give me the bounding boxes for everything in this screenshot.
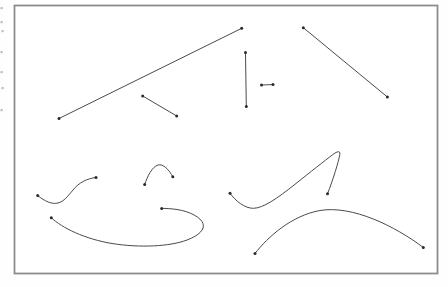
endpoint-dot <box>171 175 174 178</box>
margin-text-fragment <box>2 30 4 32</box>
endpoint-dot <box>143 183 146 186</box>
endpoint-dot <box>272 83 275 86</box>
endpoint-dot <box>50 216 53 219</box>
endpoint-dot <box>141 95 144 98</box>
endpoint-dot <box>175 115 178 118</box>
endpoint-dot <box>160 207 163 210</box>
endpoint-dot <box>58 117 61 120</box>
endpoint-dot <box>422 246 425 249</box>
endpoint-dot <box>326 192 329 195</box>
endpoint-dot <box>240 27 243 30</box>
endpoint-dot <box>302 26 305 29</box>
margin-text-fragment <box>1 21 3 23</box>
endpoint-dot <box>260 84 263 87</box>
endpoint-dot <box>245 105 248 108</box>
margin-text-fragment <box>1 109 3 111</box>
scanned-figure-page <box>0 0 448 287</box>
margin-text-fragment <box>1 7 3 9</box>
endpoint-dot <box>95 176 98 179</box>
figure-canvas <box>0 0 448 287</box>
endpoint-dot <box>244 51 247 54</box>
margin-text-fragment <box>2 87 4 89</box>
endpoint-dot <box>254 252 257 255</box>
margin-text-fragment <box>1 71 3 73</box>
endpoint-dot <box>229 192 232 195</box>
endpoint-dot <box>36 194 39 197</box>
endpoint-dot <box>386 96 389 99</box>
margin-text-fragment <box>1 51 3 53</box>
